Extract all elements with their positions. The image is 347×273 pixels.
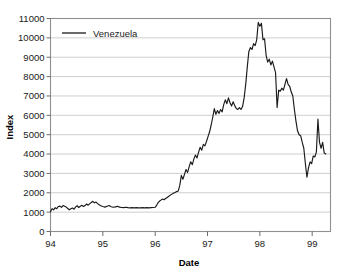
- chart-container: 0100020003000400050006000700080009000100…: [0, 0, 347, 273]
- y-tick-label: 10000: [18, 32, 44, 43]
- x-axis-title: Date: [179, 257, 200, 268]
- x-tick-label: 97: [202, 238, 213, 249]
- y-tick-label: 7000: [23, 90, 44, 101]
- y-tick-label: 11000: [19, 13, 45, 24]
- x-tick-label: 98: [255, 238, 266, 249]
- y-axis-title: Index: [4, 114, 15, 140]
- legend-label: Venezuela: [93, 28, 138, 39]
- y-tick-label: 4000: [23, 148, 44, 159]
- y-tick-label: 3000: [23, 168, 44, 179]
- y-tick-label: 8000: [23, 71, 44, 82]
- x-tick-label: 94: [45, 238, 56, 249]
- x-tick-label: 99: [307, 238, 318, 249]
- y-tick-label: 1000: [23, 207, 44, 218]
- x-tick-label: 95: [98, 238, 109, 249]
- y-tick-label: 2000: [23, 187, 44, 198]
- venezuela-index-line-chart: 0100020003000400050006000700080009000100…: [0, 0, 347, 273]
- x-tick-label: 96: [150, 238, 161, 249]
- y-tick-label: 6000: [23, 110, 44, 121]
- y-tick-label: 5000: [23, 129, 44, 140]
- y-tick-label: 0: [39, 226, 44, 237]
- y-tick-label: 9000: [23, 52, 44, 63]
